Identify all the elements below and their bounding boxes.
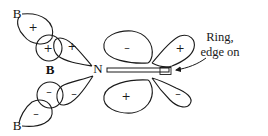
atom-boron-top: B bbox=[13, 6, 22, 21]
sign-upper-outer: + bbox=[28, 21, 37, 34]
atom-nitrogen: N bbox=[93, 61, 103, 76]
label-ring-line2: edge on bbox=[200, 45, 240, 59]
sign-upper-circle: + bbox=[43, 42, 52, 55]
atom-boron-bottom: B bbox=[13, 118, 22, 133]
sign-lower-n-lobe: – bbox=[71, 87, 77, 100]
atom-boron-center: B bbox=[46, 62, 55, 77]
sign-middle-top: – bbox=[124, 41, 130, 54]
label-ring-line1: Ring, bbox=[206, 30, 233, 44]
ring-top-lobe bbox=[152, 35, 194, 67]
sign-lower-circle: – bbox=[46, 85, 52, 98]
sign-lower-outer: – bbox=[33, 107, 39, 120]
sign-ring-bottom: – bbox=[175, 87, 181, 100]
label-arrow bbox=[176, 58, 206, 70]
sign-middle-bottom: + bbox=[121, 90, 130, 103]
ring-bottom-lobe bbox=[152, 78, 191, 107]
orbital-diagram: + + + – – – – + + – B B B N Ring, edge o… bbox=[0, 0, 268, 136]
sign-upper-n-lobe: + bbox=[67, 40, 76, 53]
sign-ring-top: + bbox=[175, 42, 184, 55]
